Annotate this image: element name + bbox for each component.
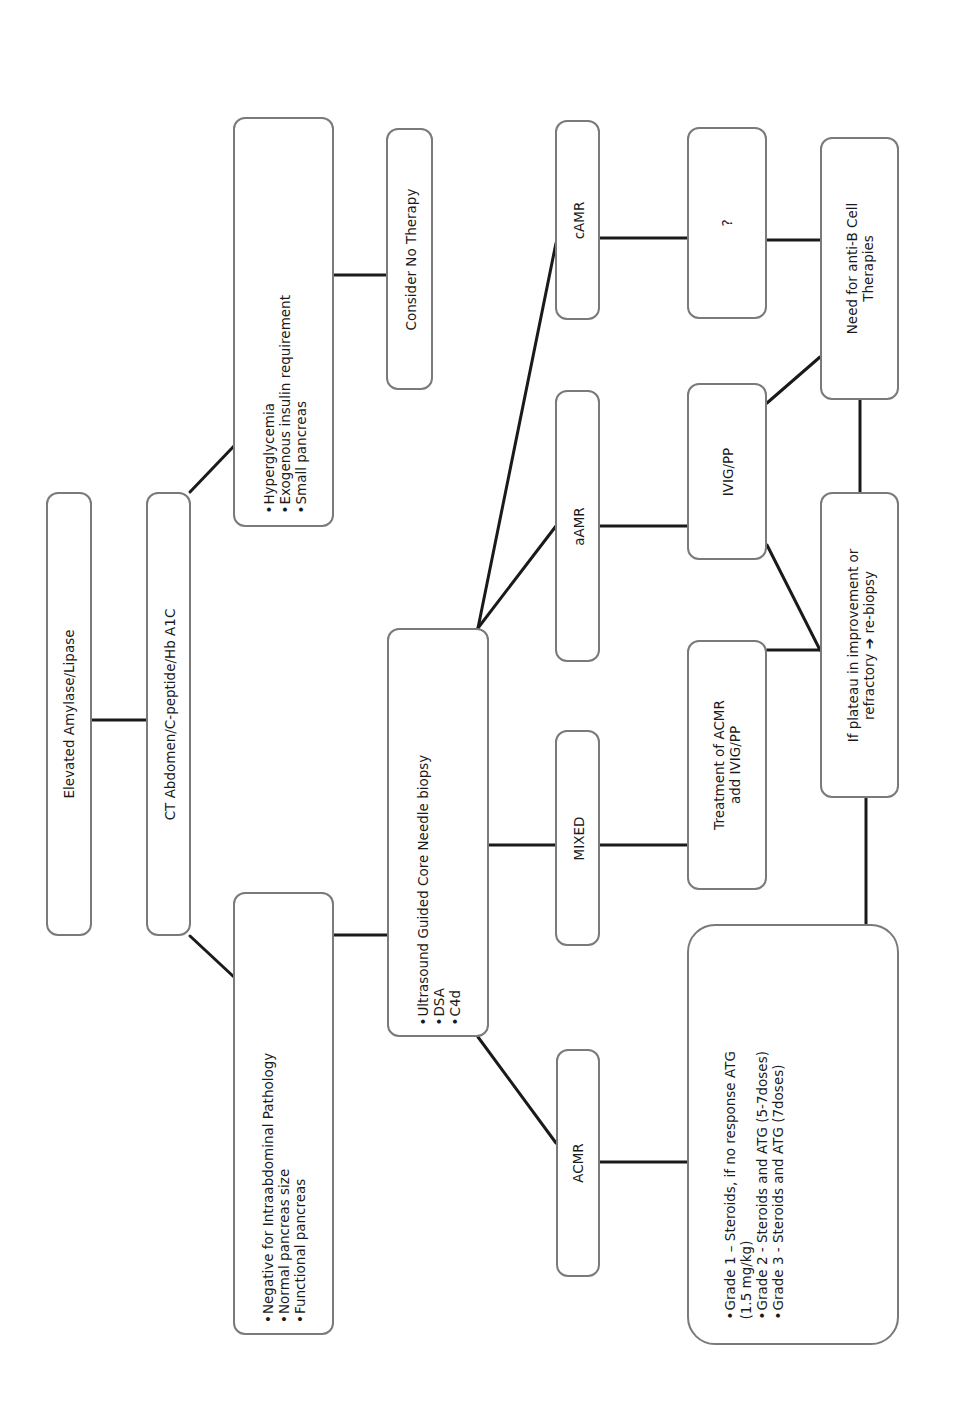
edge-ct-hyper (190, 446, 234, 492)
node-text: Treatment of ACMR (711, 700, 727, 830)
node-acmr: ACMR (556, 1049, 600, 1277)
edge-ultrasound-acmr (478, 1037, 556, 1143)
node-text: CT Abdomen/C-peptide/Hb A1C (161, 608, 177, 820)
node-plateau-rebiopsy: If plateau in improvement or refractory … (820, 492, 899, 798)
node-text: Need for anti-B Cell (844, 203, 860, 334)
node-text: (1.5 mg/kg) (737, 1240, 753, 1319)
node-text: refractory ➔ re-biopsy (860, 570, 876, 719)
node-unknown: ? (687, 127, 767, 319)
node-text: Therapies (860, 235, 876, 302)
flowchart-canvas: Elevated Amylase/Lipase CT Abdomen/C-pep… (0, 0, 956, 1416)
node-text: cAMR (570, 201, 586, 239)
node-treatment-acmr: Treatment of ACMR add IVIG/PP (687, 640, 767, 890)
node-ct-abdomen: CT Abdomen/C-peptide/Hb A1C (146, 492, 191, 936)
edge-ivig-antib (767, 357, 820, 403)
node-text: ? (719, 219, 735, 226)
node-text: aAMR (570, 507, 586, 546)
node-text: ACMR (570, 1143, 586, 1182)
node-text: Negative for Intraabdominal Pathology (260, 1053, 276, 1323)
node-consider-no-therapy: Consider No Therapy (386, 128, 433, 390)
node-hyperglycemia: Hyperglycemia Exogenous insulin requirem… (233, 117, 334, 527)
node-elevated-amylase-lipase: Elevated Amylase/Lipase (46, 492, 92, 936)
node-text: Grade 1 – Steroids, if no response ATG (721, 1051, 737, 1319)
node-text: Functional pancreas (292, 1179, 308, 1323)
node-aamr: aAMR (555, 390, 600, 662)
node-text: Hyperglycemia (260, 402, 276, 513)
node-ultrasound-biopsy: Ultrasound Guided Core Needle biopsy DSA… (387, 628, 489, 1037)
node-text: Grade 3 - Steroids and ATG (7doses) (769, 1064, 785, 1319)
node-grade-steroids-atg: Grade 1 – Steroids, if no response ATG (… (687, 924, 899, 1345)
edge-ultrasound-camr (478, 243, 556, 628)
node-ivig-pp: IVIG/PP (687, 383, 767, 560)
node-text: If plateau in improvement or (844, 548, 860, 742)
node-text: Elevated Amylase/Lipase (61, 629, 77, 798)
edge-ivig-plateau (767, 545, 820, 650)
edge-ct-negative (190, 936, 234, 977)
node-text: MIXED (570, 816, 586, 860)
node-mixed: MIXED (555, 730, 600, 946)
node-text: Grade 2 - Steroids and ATG (5-7doses) (753, 1051, 769, 1319)
node-text: Small pancreas (292, 401, 308, 513)
node-text: Consider No Therapy (402, 188, 418, 330)
node-text: add IVIG/PP (727, 726, 743, 804)
node-anti-b-cell: Need for anti-B Cell Therapies (820, 137, 899, 400)
node-text: Exogenous insulin requirement (276, 295, 292, 513)
node-camr: cAMR (555, 120, 600, 320)
node-text: DSA (430, 988, 446, 1025)
node-text: IVIG/PP (719, 447, 735, 496)
node-negative-pathology: Negative for Intraabdominal Pathology No… (233, 892, 334, 1335)
node-text: C4d (446, 989, 462, 1025)
node-text: Ultrasound Guided Core Needle biopsy (414, 754, 430, 1025)
node-text: Normal pancreas size (276, 1169, 292, 1323)
